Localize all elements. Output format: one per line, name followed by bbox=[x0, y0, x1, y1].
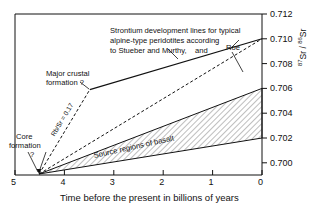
y-tick-label-0708: 0.708 bbox=[270, 59, 293, 70]
y-axis-title-text: 87Sr / 86Sr bbox=[298, 29, 308, 66]
x-tick-label-3: 3 bbox=[110, 177, 115, 188]
source-regions-wedge bbox=[39, 88, 262, 174]
sr86-superscript: 86 bbox=[297, 37, 303, 44]
roe-label: Roe bbox=[226, 44, 240, 53]
y-tick-label-0710: 0.710 bbox=[270, 34, 293, 45]
strontium-note-line1: Strontium development lines for typical bbox=[110, 27, 240, 36]
strontium-note-line3: to Stueber and Murthy, and bbox=[110, 47, 208, 56]
x-tick-label-0: 0 bbox=[258, 177, 263, 188]
core-formation-label-line2: formation bbox=[9, 142, 41, 151]
y-tick-label-0712: 0.712 bbox=[270, 9, 293, 20]
y-axis-title: 87Sr / 86Sr bbox=[298, 29, 308, 66]
y-axis-ticks bbox=[262, 14, 267, 163]
roe-leader-line-lower bbox=[232, 52, 243, 72]
y-tick-label-0700: 0.700 bbox=[270, 158, 293, 169]
sr-slash-text: Sr / bbox=[298, 44, 308, 60]
x-axis-title: Time before the present in billions of y… bbox=[60, 192, 239, 203]
y-tick-label-0704: 0.704 bbox=[270, 108, 293, 119]
sr87-superscript: 87 bbox=[297, 59, 303, 66]
y-tick-label-0702: 0.702 bbox=[270, 133, 293, 144]
x-tick-label-5: 5 bbox=[11, 177, 16, 188]
sr-tail-text: Sr bbox=[298, 29, 308, 38]
strontium-note-line2: alpine-type peridotites according bbox=[110, 37, 219, 46]
x-tick-label-4: 4 bbox=[60, 177, 65, 188]
x-tick-label-1: 1 bbox=[209, 177, 214, 188]
y-tick-label-0706: 0.706 bbox=[270, 83, 293, 94]
strontium-development-chart: 0.712 0.710 0.708 0.706 0.704 0.702 0.70… bbox=[0, 0, 314, 210]
x-tick-label-2: 2 bbox=[159, 177, 164, 188]
major-crustal-label-line2: formation ? bbox=[46, 79, 84, 88]
core-formation-question-mark: ? bbox=[30, 151, 34, 160]
